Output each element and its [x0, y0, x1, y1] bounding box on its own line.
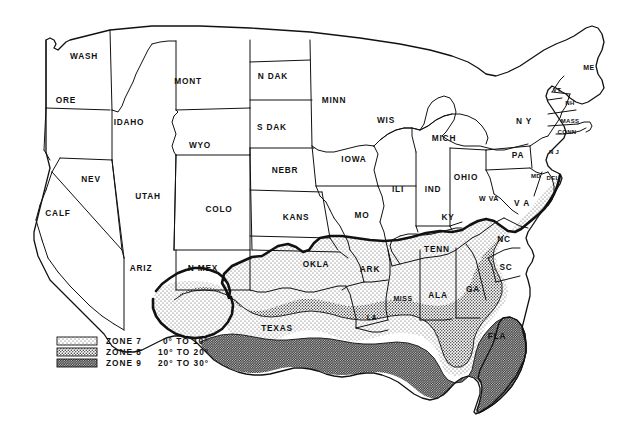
legend-swatch-zone-8 [57, 348, 97, 356]
hardiness-zone-map: WASH ORE IDAHO MONT WYO N DAK S DAK NEBR… [0, 0, 635, 436]
legend-row-zone-7: ZONE 7 0° TO 10° [57, 336, 208, 346]
legend-zone-label-7: ZONE 7 [106, 336, 142, 346]
legend-row-zone-8: ZONE 8 10° TO 20° [57, 347, 209, 357]
legend-row-zone-9: ZONE 9 20° TO 30° [57, 358, 209, 368]
legend-zone-range-7: 0° TO 10° [163, 336, 208, 346]
legend-swatch-zone-9 [57, 359, 97, 367]
legend-zone-range-9: 20° TO 30° [158, 358, 209, 368]
legend-zone-range-8: 10° TO 20° [158, 347, 209, 357]
legend-zone-label-9: ZONE 9 [106, 358, 142, 368]
map-legend: ZONE 7 0° TO 10° ZONE 8 10° TO 20° ZONE … [57, 336, 209, 368]
legend-swatch-zone-7 [57, 337, 97, 345]
map-canvas: WASH ORE IDAHO MONT WYO N DAK S DAK NEBR… [0, 0, 635, 436]
legend-zone-label-8: ZONE 8 [106, 347, 142, 357]
